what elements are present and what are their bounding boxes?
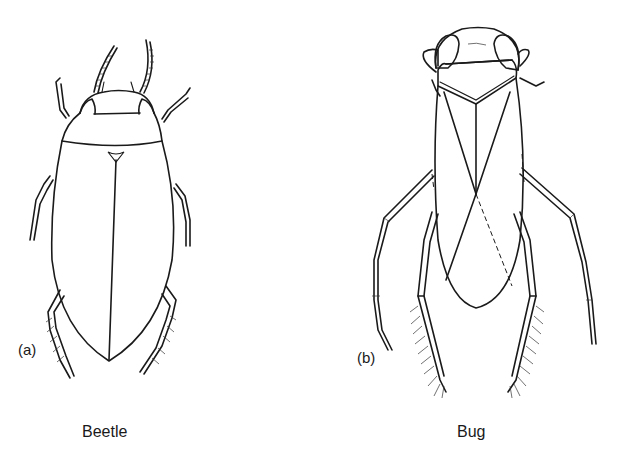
- beetle-illustration: [30, 40, 190, 378]
- insect-comparison-figure: (a) Beetle (b) Bug: [0, 0, 625, 459]
- panel-b-caption: Bug: [457, 423, 485, 441]
- panel-a-caption: Beetle: [82, 423, 127, 441]
- panel-a-tag: (a): [18, 341, 36, 358]
- bug-illustration: [372, 28, 596, 399]
- panel-b-tag: (b): [357, 349, 375, 366]
